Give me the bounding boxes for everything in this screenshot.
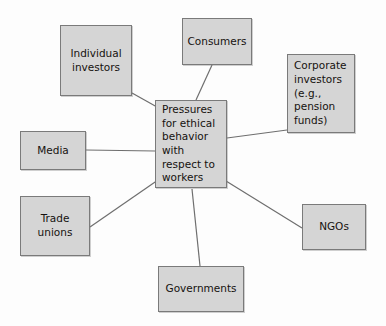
node-consumers[interactable]: Consumers: [182, 18, 252, 65]
node-label-ngos: NGOs: [316, 220, 352, 234]
node-corporate-investors[interactable]: Corporate investors (e.g., pension funds…: [287, 54, 355, 133]
node-center-pressures[interactable]: Pressures for ethical behavior with resp…: [155, 100, 227, 188]
node-label-corporate-investors: Corporate investors (e.g., pension funds…: [288, 59, 350, 128]
link-media: [86, 150, 155, 151]
stakeholder-diagram: Individual investors Consumers Corporate…: [0, 0, 386, 326]
link-governments: [192, 189, 200, 266]
node-individual-investors[interactable]: Individual investors: [60, 25, 132, 96]
link-individual-investors: [132, 93, 157, 107]
link-trade-unions: [90, 180, 158, 227]
link-ngos: [226, 181, 302, 228]
node-label-media: Media: [34, 144, 72, 158]
node-trade-unions[interactable]: Trade unions: [20, 196, 90, 256]
node-media[interactable]: Media: [20, 131, 86, 170]
node-label-trade-unions: Trade unions: [35, 212, 76, 240]
node-governments[interactable]: Governments: [158, 266, 244, 312]
node-label-governments: Governments: [163, 282, 240, 296]
node-label-individual-investors: Individual investors: [67, 47, 124, 75]
node-label-consumers: Consumers: [184, 35, 249, 49]
link-consumers: [196, 65, 212, 100]
node-label-center: Pressures for ethical behavior with resp…: [156, 103, 218, 185]
link-corporate-investors: [227, 130, 287, 138]
node-ngos[interactable]: NGOs: [302, 204, 366, 250]
